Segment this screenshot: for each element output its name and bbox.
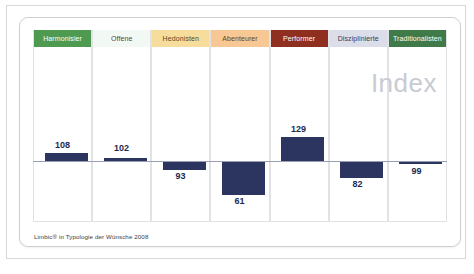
chart-bar: [340, 162, 383, 178]
column-header-harmonisier: Harmonisier: [34, 30, 91, 47]
plot-area: Harmonisier Offene Hedonisten Abenteurer…: [33, 30, 447, 222]
chart-bar-value-label: 108: [33, 140, 92, 150]
chart-bar: [104, 158, 147, 161]
column-header-abenteurer: Abenteurer: [211, 30, 268, 47]
chart-column-offene: Offene: [92, 30, 151, 222]
index-watermark: Index: [371, 68, 437, 99]
column-header-performer: Performer: [271, 30, 328, 47]
chart-column-traditionalisten: Traditionalisten: [388, 30, 447, 222]
source-note: Limbic® in Typologie der Wünsche 2008: [34, 233, 148, 240]
chart-bar-value-label: 129: [269, 124, 328, 134]
chart-bar-value-label: 82: [328, 179, 387, 189]
chart-bar: [281, 137, 324, 161]
chart-bar: [45, 153, 88, 161]
chart-card: Harmonisier Offene Hedonisten Abenteurer…: [19, 17, 461, 247]
column-header-hedonisten: Hedonisten: [152, 30, 209, 47]
chart-bar: [399, 162, 442, 164]
column-body-harmonisier: [34, 47, 91, 221]
column-body-hedonisten: [152, 47, 209, 221]
column-header-disziplinierte: Disziplinierte: [330, 30, 387, 47]
column-body-offene: [93, 47, 150, 221]
chart-bar-value-label: 102: [92, 143, 151, 153]
chart-bar-value-label: 93: [151, 171, 210, 181]
column-header-traditionalisten: Traditionalisten: [389, 30, 446, 47]
column-header-offene: Offene: [93, 30, 150, 47]
chart-bar: [222, 162, 265, 195]
chart-column-hedonisten: Hedonisten: [151, 30, 210, 222]
chart-bar: [163, 162, 206, 170]
chart-bar-value-label: 61: [210, 196, 269, 206]
chart-bar-value-label: 99: [387, 166, 446, 176]
page-caption: [8, 264, 168, 272]
column-body-performer: [271, 47, 328, 221]
chart-column-harmonisier: Harmonisier: [33, 30, 92, 222]
chart-column-disziplinierte: Disziplinierte: [329, 30, 388, 222]
